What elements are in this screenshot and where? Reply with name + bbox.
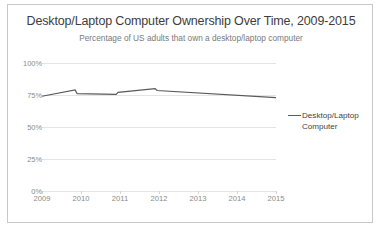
x-axis-tick-label: 2015 <box>268 194 285 203</box>
legend-item-label: Desktop/Laptop Computer <box>302 110 368 132</box>
x-axis-tick-label: 2011 <box>112 194 128 203</box>
chart-screenshot: Desktop/Laptop Computer Ownership Over T… <box>0 0 380 230</box>
legend-item: Desktop/Laptop Computer <box>288 110 374 132</box>
chart-legend: Desktop/Laptop Computer <box>288 110 374 132</box>
x-axis-tick-label: 2010 <box>73 194 90 203</box>
legend-line-marker-icon <box>288 115 301 116</box>
x-axis-tick-label: 2013 <box>190 194 207 203</box>
x-axis-tick-label: 2012 <box>151 194 168 203</box>
x-axis-tick-label: 2014 <box>229 194 246 203</box>
chart-frame: Desktop/Laptop Computer Ownership Over T… <box>7 4 373 223</box>
x-axis-tick-label: 2009 <box>34 194 51 203</box>
